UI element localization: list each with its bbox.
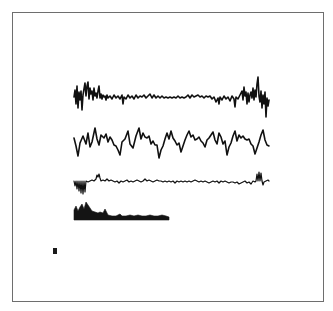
trace-4-histogram [74, 202, 169, 220]
trace-2-periodic-signal [74, 128, 269, 158]
trace-3-event-signal [74, 172, 269, 194]
signal-traces-plot [0, 0, 333, 311]
scale-marker [53, 248, 57, 254]
trace-1-noisy-signal [74, 77, 269, 117]
